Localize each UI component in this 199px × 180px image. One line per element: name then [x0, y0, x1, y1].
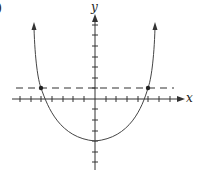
- y-axis-label: y: [91, 0, 98, 14]
- x-axis: [12, 96, 185, 102]
- graph: [0, 0, 199, 180]
- left-arrowhead: [32, 22, 37, 30]
- x-axis-label: x: [186, 91, 193, 105]
- intersection-point-left: [39, 86, 43, 90]
- y-axis: [92, 14, 98, 170]
- intersection-point-right: [146, 86, 150, 90]
- right-arrowhead: [153, 22, 158, 30]
